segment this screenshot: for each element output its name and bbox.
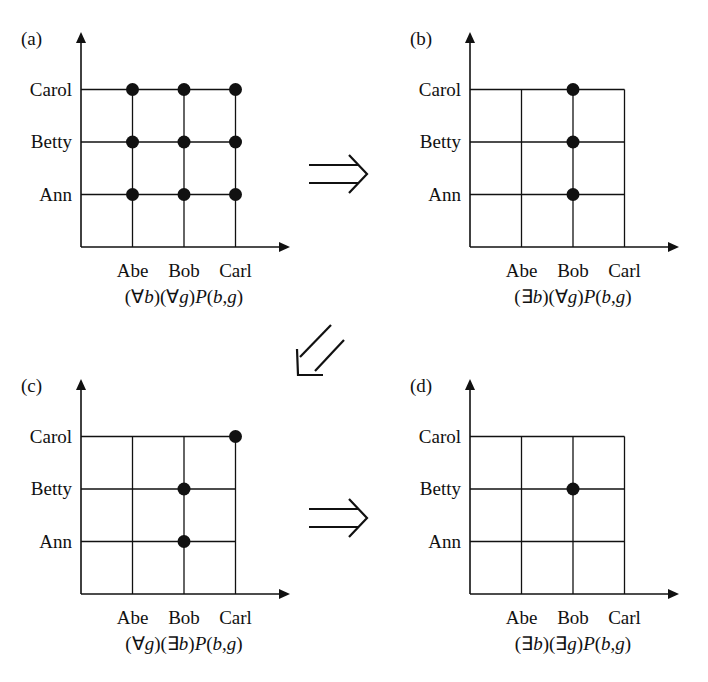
relation-dot: [126, 188, 139, 201]
relation-dot: [229, 430, 242, 443]
y-label: Betty: [420, 478, 462, 499]
panel-a: AnnBettyCarolAbeBobCarl(a)(∀b)(∀g)P(b,g): [21, 28, 290, 308]
relation-dot: [178, 83, 191, 96]
x-label: Bob: [168, 607, 200, 628]
y-axis-arrow-icon: [465, 379, 475, 390]
y-label: Carol: [419, 426, 461, 447]
y-label: Betty: [420, 131, 462, 152]
x-label: Abe: [117, 260, 149, 281]
relation-dot: [126, 136, 139, 149]
y-label: Carol: [30, 426, 72, 447]
relation-dot: [178, 535, 191, 548]
y-axis-arrow-icon: [76, 32, 86, 43]
relation-dot: [567, 188, 580, 201]
y-label: Ann: [428, 184, 461, 205]
relation-dot: [567, 136, 580, 149]
x-label: Carl: [219, 260, 252, 281]
relation-dot: [126, 83, 139, 96]
x-label: Bob: [168, 260, 200, 281]
y-label: Carol: [419, 79, 461, 100]
formula: (∃b)(∀g)P(b,g): [514, 286, 631, 308]
formula: (∃b)(∃g)P(b,g): [515, 633, 631, 655]
formula: (∀b)(∀g)P(b,g): [125, 286, 243, 308]
x-label: Abe: [506, 260, 538, 281]
relation-dot: [229, 136, 242, 149]
panel-label: (d): [410, 375, 432, 397]
y-label: Ann: [39, 184, 72, 205]
y-label: Ann: [428, 531, 461, 552]
panel-label: (a): [21, 28, 42, 50]
y-label: Carol: [30, 79, 72, 100]
relation-dot: [567, 483, 580, 496]
formula: (∀g)(∃b)P(b,g): [125, 633, 242, 655]
implies-arrow-icon-a-b: [309, 155, 367, 193]
y-axis-arrow-icon: [465, 32, 475, 43]
x-label: Abe: [117, 607, 149, 628]
x-label: Carl: [608, 607, 641, 628]
x-axis-arrow-icon: [668, 589, 679, 599]
implies-arrow-icon-c-d: [309, 499, 367, 537]
y-label: Betty: [31, 478, 73, 499]
y-label: Betty: [31, 131, 73, 152]
relation-dot: [178, 136, 191, 149]
y-axis-arrow-icon: [76, 379, 86, 390]
y-label: Ann: [39, 531, 72, 552]
relation-dot: [229, 83, 242, 96]
x-label: Carl: [608, 260, 641, 281]
x-label: Bob: [557, 607, 589, 628]
x-label: Carl: [219, 607, 252, 628]
relation-dot: [178, 188, 191, 201]
panel-label: (c): [21, 375, 42, 397]
panel-c: AnnBettyCarolAbeBobCarl(c)(∀g)(∃b)P(b,g): [21, 375, 290, 655]
relation-dot: [229, 188, 242, 201]
panel-label: (b): [410, 28, 432, 50]
x-axis-arrow-icon: [668, 242, 679, 252]
implies-arrow-icon-b-c: [297, 325, 344, 375]
x-label: Abe: [506, 607, 538, 628]
panel-b: AnnBettyCarolAbeBobCarl(b)(∃b)(∀g)P(b,g): [410, 28, 679, 308]
x-axis-arrow-icon: [279, 589, 290, 599]
x-label: Bob: [557, 260, 589, 281]
quantifier-diagram: AnnBettyCarolAbeBobCarl(a)(∀b)(∀g)P(b,g)…: [0, 0, 708, 682]
relation-dot: [178, 483, 191, 496]
x-axis-arrow-icon: [279, 242, 290, 252]
relation-dot: [567, 83, 580, 96]
panel-d: AnnBettyCarolAbeBobCarl(d)(∃b)(∃g)P(b,g): [410, 375, 679, 655]
